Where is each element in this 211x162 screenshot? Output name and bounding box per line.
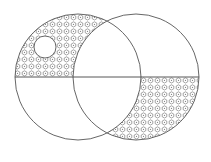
small-circle (34, 36, 56, 58)
overlapping-circles-diagram (0, 0, 211, 162)
shaded-region-lower-right (0, 0, 211, 162)
